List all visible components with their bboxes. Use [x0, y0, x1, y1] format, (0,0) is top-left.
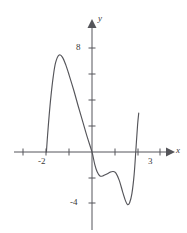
- plot-canvas: [0, 0, 187, 233]
- y-tick-label-8: 8: [76, 43, 81, 52]
- y-axis-label: y: [98, 14, 102, 23]
- y-axis: [88, 19, 97, 230]
- x-tick-label-3: 3: [148, 157, 153, 166]
- function-curve: [46, 55, 138, 205]
- y-axis-arrowhead: [88, 19, 97, 28]
- x-tick-label-neg2: -2: [38, 157, 46, 166]
- y-tick-label-neg4: -4: [70, 198, 78, 207]
- x-axis-arrowhead: [166, 148, 175, 157]
- graph-figure: y x 8 -4 -2 3: [0, 0, 187, 233]
- x-axis-label: x: [176, 146, 180, 155]
